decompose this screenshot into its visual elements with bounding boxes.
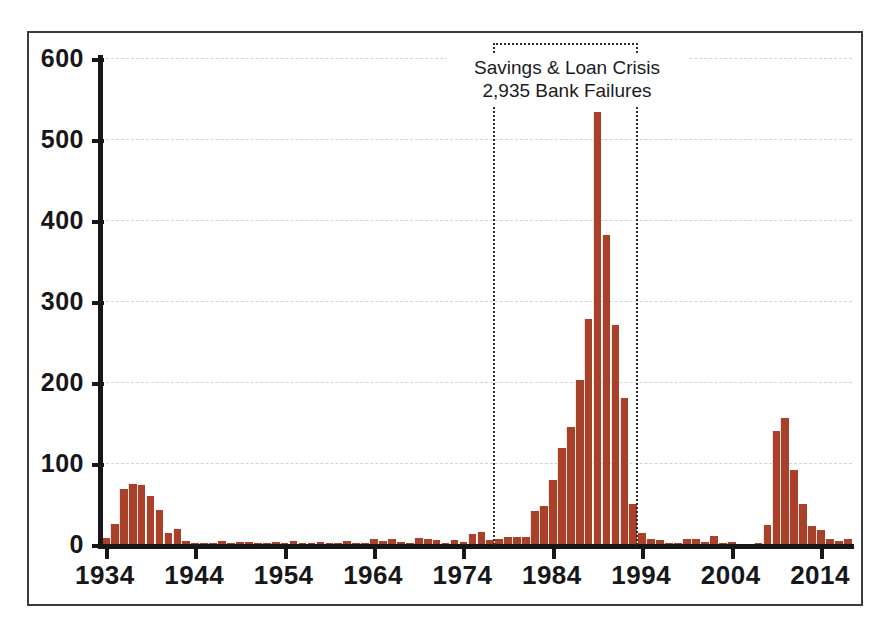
xtick-mark-2004 [731, 548, 735, 559]
bar-2014 [816, 530, 825, 545]
bank-failures-bar-chart: 600 500 400 300 200 100 0 19341944195419… [0, 0, 890, 634]
xtick-mark-1934 [105, 548, 109, 559]
xtick-mark-1954 [284, 548, 288, 559]
bar-2013 [807, 526, 816, 545]
bar-series-bank-failures [0, 0, 890, 634]
annotation-line-1: Savings & Loan Crisis [474, 57, 660, 78]
bar-1937 [128, 484, 137, 545]
bar-2010 [780, 418, 789, 545]
bar-1938 [137, 485, 146, 545]
xtick-mark-1944 [194, 548, 198, 559]
x-axis-line [98, 544, 854, 549]
xtick-mark-1964 [373, 548, 377, 559]
xtick-mark-1984 [552, 548, 556, 559]
bar-1936 [119, 489, 128, 545]
xtick-mark-1994 [641, 548, 645, 559]
bar-1935 [110, 524, 119, 545]
annotation-line-2: 2,935 Bank Failures [447, 79, 687, 102]
xtick-label-2014: 2014 [765, 562, 875, 588]
savings-loan-crisis-annotation: Savings & Loan Crisis 2,935 Bank Failure… [447, 54, 687, 105]
y-axis-line [98, 55, 103, 547]
bar-1940 [155, 510, 164, 545]
xtick-mark-2014 [820, 548, 824, 559]
bar-2012 [798, 504, 807, 545]
bar-1942 [173, 529, 182, 545]
savings-loan-crisis-span-box [493, 43, 638, 545]
bar-2008 [763, 525, 772, 545]
xtick-mark-1974 [462, 548, 466, 559]
bar-2011 [789, 470, 798, 545]
bar-2009 [772, 431, 781, 545]
bar-1939 [146, 496, 155, 545]
